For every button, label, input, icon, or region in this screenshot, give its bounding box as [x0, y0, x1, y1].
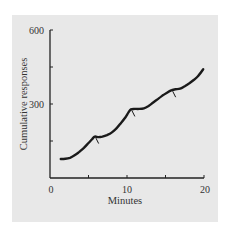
reinforcement-mark	[132, 110, 135, 116]
y-tick-label-300: 300	[29, 99, 44, 110]
y-axis-title: Cumulative responses	[18, 58, 29, 150]
cumulative-record-chart: 600 300 0 10 20 Minutes Cumulative respo…	[0, 0, 227, 236]
x-tick-label-10: 10	[122, 184, 132, 195]
x-tick-label-0: 0	[49, 184, 54, 195]
y-tick-label-600: 600	[29, 25, 44, 36]
x-tick-label-20: 20	[200, 184, 210, 195]
reinforcement-mark	[96, 138, 99, 144]
cumulative-response-curve	[61, 69, 203, 159]
reinforcement-mark	[173, 91, 176, 97]
x-axis-title: Minutes	[108, 195, 142, 206]
